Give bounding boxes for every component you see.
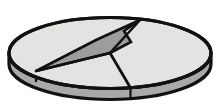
pie-chart-svg xyxy=(0,0,224,108)
pie-chart-figure: Shaded cylindrical pie chart viewed at a… xyxy=(0,0,224,108)
pie-top-face-group xyxy=(9,18,211,89)
